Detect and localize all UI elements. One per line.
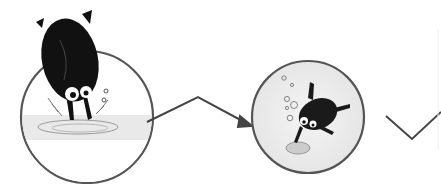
arrow-2-icon [386, 112, 441, 139]
panel-diving-beetle [20, 10, 155, 184]
illustration [0, 0, 441, 184]
rock-icon [286, 142, 310, 154]
panel-swimming-beetle [252, 61, 364, 173]
arrow-1-icon [147, 97, 252, 127]
water-surface-icon [20, 115, 155, 184]
